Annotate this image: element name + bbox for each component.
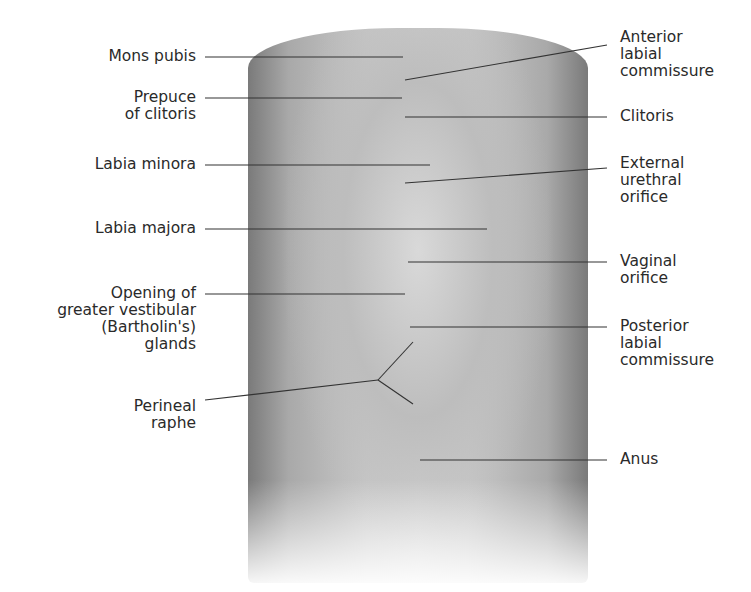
label-clitoris: Clitoris: [620, 108, 674, 125]
label-anterior-labial-commissure: Anterior labial commissure: [620, 29, 714, 80]
label-labia-majora: Labia majora: [95, 220, 196, 237]
label-posterior-labial-commissure: Posterior labial commissure: [620, 318, 714, 369]
label-prepuce-of-clitoris: Prepuce of clitoris: [125, 89, 196, 123]
label-mons-pubis: Mons pubis: [108, 48, 196, 65]
label-labia-minora: Labia minora: [95, 156, 196, 173]
label-external-urethral-orifice: External urethral orifice: [620, 155, 684, 206]
label-perineal-raphe: Perineal raphe: [134, 398, 196, 432]
label-anus: Anus: [620, 451, 658, 468]
label-vaginal-orifice: Vaginal orifice: [620, 253, 677, 287]
anatomy-figure: Mons pubis Prepuce of clitoris Labia min…: [0, 0, 751, 592]
label-bartholins-glands: Opening of greater vestibular (Bartholin…: [57, 285, 196, 353]
